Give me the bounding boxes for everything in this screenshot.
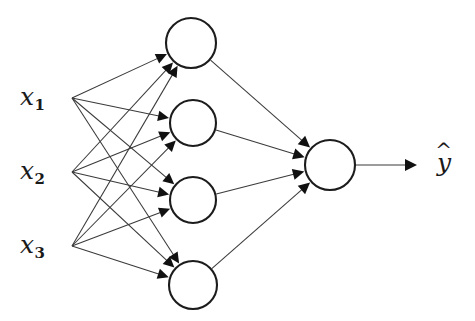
circumflex-icon: ^ (435, 140, 452, 160)
edge-x2-h2 (72, 136, 162, 172)
edge-x2-h4 (72, 172, 168, 261)
input-label-x2-base: x (20, 156, 34, 185)
output-arrow (356, 159, 417, 171)
edge-x2-h3 (72, 172, 160, 192)
edge-x3-h3 (72, 212, 162, 246)
output-layer-nodes (305, 140, 355, 190)
edge-h2-o1 (216, 130, 296, 155)
output-label-y-hat: ^y (437, 150, 451, 175)
hidden-layer-nodes (166, 18, 217, 309)
input-label-x1-subscript: 1 (35, 96, 45, 114)
input-label-x3-base: x (20, 230, 34, 259)
input-label-x1: x1 (20, 84, 45, 113)
hidden-node-3 (170, 177, 216, 223)
input-to-hidden-edges (72, 54, 179, 279)
network-canvas (0, 0, 475, 321)
edge-h3-o1 (216, 174, 295, 194)
edge-h4-o1 (212, 188, 303, 268)
edge-x1-h4 (72, 98, 174, 256)
hidden-to-output-edges (211, 60, 311, 268)
edge-x3-h2 (72, 147, 170, 246)
edge-x3-h4 (72, 246, 160, 274)
hidden-node-1 (166, 18, 216, 68)
input-label-x2: x2 (20, 158, 45, 187)
input-label-x2-subscript: 2 (35, 170, 45, 188)
y-hat-wrapper: ^y (437, 150, 451, 175)
neural-network-diagram: x1 x2 x3 ^y (0, 0, 475, 321)
edge-x1-h2 (72, 98, 160, 116)
edge-x3-h1 (72, 74, 173, 246)
input-label-x1-base: x (20, 82, 34, 111)
input-label-x3: x3 (20, 232, 45, 261)
output-node-1 (305, 140, 355, 190)
hidden-node-2 (170, 100, 216, 146)
edge-h1-o1 (211, 60, 304, 141)
input-label-x3-subscript: 3 (35, 244, 45, 262)
hidden-node-4 (169, 261, 217, 309)
